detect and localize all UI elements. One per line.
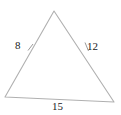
triangle-figure: 8 12 15 bbox=[0, 0, 121, 115]
triangle-svg bbox=[0, 0, 121, 115]
side-length-label-bottom: 15 bbox=[52, 101, 63, 112]
side-length-label-right: 12 bbox=[87, 41, 98, 52]
side-length-label-left: 8 bbox=[15, 40, 21, 51]
triangle-shape bbox=[5, 11, 114, 102]
